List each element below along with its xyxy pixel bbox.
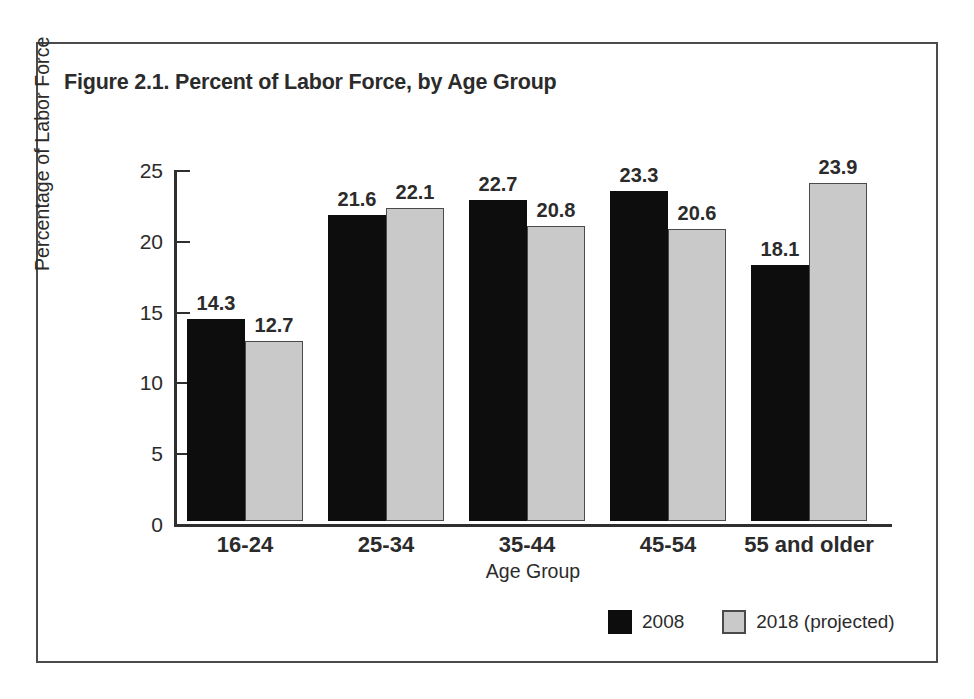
bar: 23.9 xyxy=(809,183,867,521)
bar-value-label: 23.3 xyxy=(620,164,659,187)
x-axis-tick-label: 35-44 xyxy=(451,532,603,558)
bar-value-label: 20.6 xyxy=(678,202,717,225)
bar: 20.8 xyxy=(527,226,585,521)
legend-swatch xyxy=(608,610,632,634)
y-axis-tick-label: 0 xyxy=(151,513,163,537)
y-axis-tick-mark xyxy=(177,524,190,526)
bar-value-label: 21.6 xyxy=(338,188,377,211)
y-axis-tick-label: 25 xyxy=(140,159,163,183)
bar-group: 23.320.6 xyxy=(610,167,726,521)
x-axis-title: Age Group xyxy=(174,560,892,583)
bar: 18.1 xyxy=(751,265,809,521)
bar: 22.1 xyxy=(386,208,444,521)
y-axis-tick-label: 20 xyxy=(140,230,163,254)
bar-value-label: 22.1 xyxy=(396,181,435,204)
legend-label: 2018 (projected) xyxy=(756,611,894,633)
bar-value-label: 22.7 xyxy=(479,173,518,196)
bar-group: 21.622.1 xyxy=(328,167,444,521)
x-axis-tick-label: 16-24 xyxy=(169,532,321,558)
bar: 22.7 xyxy=(469,200,527,521)
bar-value-label: 18.1 xyxy=(761,238,800,261)
x-axis-tick-label: 25-34 xyxy=(310,532,462,558)
bar: 23.3 xyxy=(610,191,668,521)
y-axis-tick-label: 15 xyxy=(140,301,163,325)
bar-group: 18.123.9 xyxy=(751,167,867,521)
legend-item: 2008 xyxy=(608,610,684,634)
y-axis-line xyxy=(174,170,177,525)
legend-swatch xyxy=(722,610,746,634)
y-axis-tick-label: 10 xyxy=(140,371,163,395)
bar: 21.6 xyxy=(328,215,386,521)
bar-value-label: 20.8 xyxy=(537,199,576,222)
chart-legend: 20082018 (projected) xyxy=(608,610,895,634)
bar-group: 22.720.8 xyxy=(469,167,585,521)
y-axis-tick-label: 5 xyxy=(151,442,163,466)
x-axis-tick-label: 55 and older xyxy=(733,532,885,558)
x-axis-tick-label: 45-54 xyxy=(592,532,744,558)
legend-item: 2018 (projected) xyxy=(722,610,894,634)
bar-value-label: 12.7 xyxy=(255,314,294,337)
bar-group: 14.312.7 xyxy=(187,167,303,521)
y-axis-title: Percentage of Labor Force xyxy=(31,37,54,271)
bar: 12.7 xyxy=(245,341,303,521)
figure-frame: Figure 2.1. Percent of Labor Force, by A… xyxy=(36,42,938,663)
legend-label: 2008 xyxy=(642,611,684,633)
x-axis-line xyxy=(174,524,892,527)
bar-value-label: 14.3 xyxy=(197,292,236,315)
bar: 20.6 xyxy=(668,229,726,521)
plot-area: 0510152025 14.312.721.622.122.720.823.32… xyxy=(174,170,892,524)
bar: 14.3 xyxy=(187,319,245,521)
bar-value-label: 23.9 xyxy=(819,156,858,179)
bar-chart: Percentage of Labor Force Age Group 0510… xyxy=(38,44,936,661)
